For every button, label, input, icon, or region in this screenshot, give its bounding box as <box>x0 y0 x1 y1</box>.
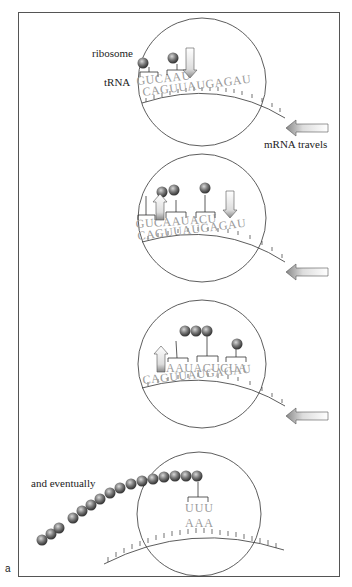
svg-text:AAA: AAA <box>185 516 214 530</box>
panel-3: CAGUUAUGAGAU AAUACUCUA <box>138 300 328 428</box>
and-eventually-label: and eventually <box>31 477 95 489</box>
translation-diagram: CAGUUAUGAGAU GUCAAU CAGUUAUGAGAU GUCAAUA… <box>0 0 352 587</box>
mrna-travels-label: mRNA travels <box>264 138 327 150</box>
panel-4: AAA UUU <box>37 452 285 576</box>
figure-letter: a <box>5 563 11 574</box>
incoming-trna-arrow-icon <box>223 191 237 218</box>
ribosome-label: ribosome <box>92 47 133 59</box>
left-arrow-icon <box>286 408 328 424</box>
trna-label: tRNA <box>104 76 130 88</box>
left-arrow-icon <box>286 120 328 136</box>
mrna-strand <box>142 93 285 118</box>
panel-2: CAGUUAUGAGAU GUCAAUACU <box>135 154 328 282</box>
left-arrow-icon <box>286 264 328 280</box>
amino-acid <box>168 53 179 64</box>
panel-1: CAGUUAUGAGAU GUCAAU <box>136 18 328 146</box>
svg-text:UUU: UUU <box>185 501 214 515</box>
svg-text:AAUACUCUA: AAUACUCUA <box>166 361 247 375</box>
amino-acid <box>138 58 149 69</box>
